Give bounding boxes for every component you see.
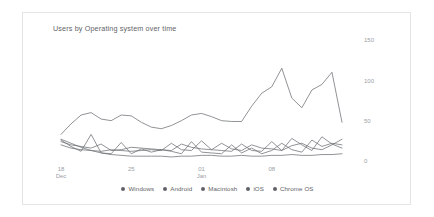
series-line-windows <box>61 68 342 134</box>
legend-item[interactable]: Android <box>163 185 192 192</box>
y-axis-tick-label: 100 <box>364 78 375 84</box>
y-axis-tick-label: 150 <box>364 37 375 43</box>
legend-item-label: Android <box>170 185 192 192</box>
line-chart-svg: 05010015018Dec2501Jan08 <box>23 13 412 206</box>
x-axis-tick-label: 18 <box>58 166 65 172</box>
series-line-chrome-os <box>61 139 342 157</box>
legend-item-label: iOS <box>253 185 264 192</box>
legend-item[interactable]: iOS <box>246 185 264 192</box>
legend-item[interactable]: Macintosh <box>201 185 237 192</box>
y-axis-tick-label: 0 <box>364 158 368 164</box>
x-axis-tick-label: 08 <box>268 166 275 172</box>
legend-item-label: Chrome OS <box>280 185 314 192</box>
x-axis-tick-label-secondary: Jan <box>197 173 207 179</box>
chart-card: Users by Operating system over time 0501… <box>22 12 411 205</box>
legend-item[interactable]: Windows <box>121 185 154 192</box>
legend-dot-android <box>163 187 167 191</box>
x-axis-tick-label: 25 <box>128 166 135 172</box>
x-axis-tick-label-secondary: Dec <box>56 173 67 179</box>
x-axis-tick-label: 01 <box>198 166 205 172</box>
chart-screenshot: Users by Operating system over time 0501… <box>0 0 434 217</box>
legend-dot-windows <box>121 187 125 191</box>
legend-dot-ios <box>246 187 250 191</box>
legend-dot-chrome-os <box>273 187 277 191</box>
legend-item-label: Macintosh <box>208 185 237 192</box>
y-axis-tick-label: 50 <box>364 118 371 124</box>
legend-dot-macintosh <box>201 187 205 191</box>
chart-plot-area: 05010015018Dec2501Jan08 <box>23 13 412 206</box>
legend-item[interactable]: Chrome OS <box>273 185 314 192</box>
legend-item-label: Windows <box>128 185 154 192</box>
chart-legend: WindowsAndroidMacintoshiOSChrome OS <box>23 185 412 192</box>
